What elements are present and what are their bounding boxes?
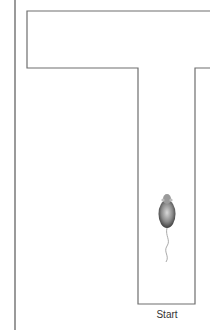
start-label: Start <box>138 309 196 320</box>
mouse-icon <box>159 194 176 262</box>
t-maze-outline <box>0 0 210 330</box>
